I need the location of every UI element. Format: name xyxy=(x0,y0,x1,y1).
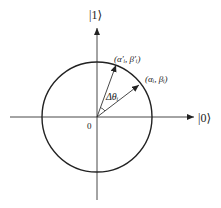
qubit-rotation-diagram: |1⟩ |0⟩ 0 (α′ᵢ, β′ᵢ) (αᵢ, βᵢ) Δθᵢ xyxy=(0,0,221,208)
vertical-axis-label: |1⟩ xyxy=(89,8,102,22)
state-label: (αᵢ, βᵢ) xyxy=(145,74,168,84)
angle-label: Δθᵢ xyxy=(105,91,119,102)
horizontal-axis-label: |0⟩ xyxy=(198,111,211,125)
origin-label: 0 xyxy=(87,121,92,131)
rotated-state-label: (α′ᵢ, β′ᵢ) xyxy=(114,54,141,64)
angle-arc xyxy=(101,108,106,111)
